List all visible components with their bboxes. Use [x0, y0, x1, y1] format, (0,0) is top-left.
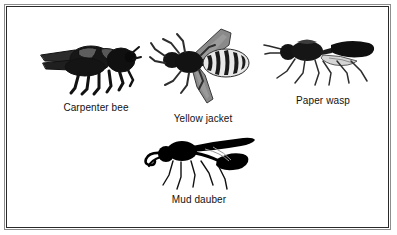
carpenter-bee-illustration [35, 33, 157, 99]
specimen-label-carpenter-bee: Carpenter bee [35, 102, 157, 114]
mud-dauber-illustration [135, 135, 263, 191]
specimen-carpenter-bee: Carpenter bee [35, 33, 157, 114]
figure-plate: Carpenter bee [7, 7, 388, 227]
specimen-label-paper-wasp: Paper wasp [263, 95, 383, 107]
stinging-insects-figure: Carpenter bee [0, 0, 397, 235]
paper-wasp-illustration [263, 33, 383, 91]
specimen-label-mud-dauber: Mud dauber [135, 194, 263, 206]
specimen-label-yellow-jacket: Yellow jacket [147, 113, 259, 125]
specimen-paper-wasp: Paper wasp [263, 33, 383, 107]
specimen-yellow-jacket: Yellow jacket [147, 25, 259, 125]
specimen-mud-dauber: Mud dauber [135, 135, 263, 206]
yellow-jacket-illustration [147, 25, 259, 109]
